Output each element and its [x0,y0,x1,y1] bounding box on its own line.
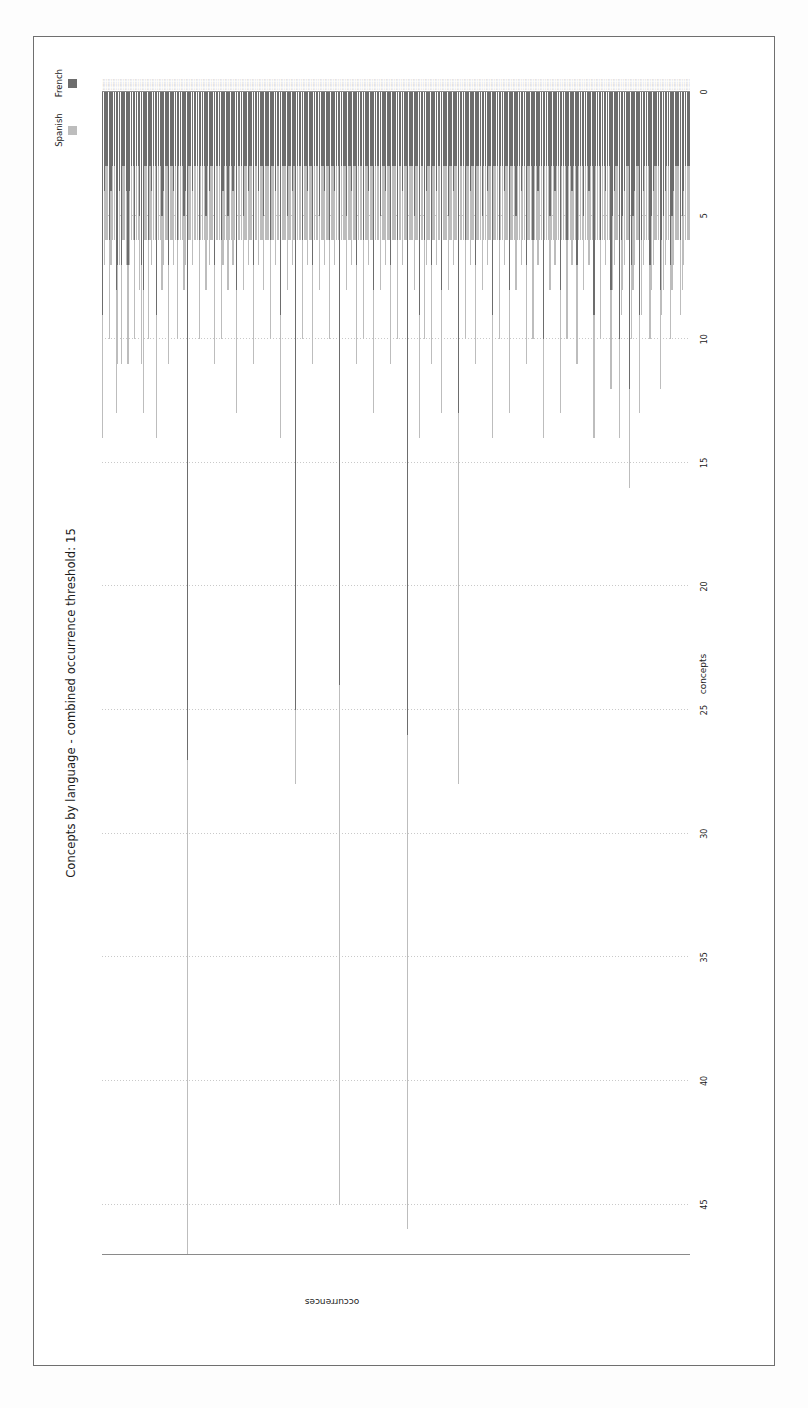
rotated-chart-canvas: Concepts by language - combined occurren… [38,43,773,1363]
legend-swatch-spanish [68,126,77,135]
plot-area: 051015202530354045••••••••••••••••••••••… [102,93,690,1255]
legend-swatch-french [68,79,77,88]
legend-label-french: French [54,69,64,97]
category-tick-label: ••••••••• [688,28,690,90]
value-axis-title-text: occurrences [305,1297,360,1307]
bar-segment-french [688,92,689,166]
plot-inner: 051015202530354045••••••••••••••••••••••… [102,93,690,1254]
chart-title: Concepts by language - combined occurren… [64,43,78,1363]
value-axis-title: occurrences [38,1274,626,1329]
legend: Spanish French [54,69,77,147]
legend-item-spanish[interactable]: Spanish [54,113,77,147]
bar-row[interactable] [688,92,689,1254]
legend-item-french[interactable]: French [54,69,77,97]
category-axis-title: concepts [698,93,708,1255]
bar-segment-spanish [688,166,689,240]
page-canvas: Concepts by language - combined occurren… [0,0,808,1408]
legend-label-spanish: Spanish [54,113,64,147]
figure-frame: Concepts by language - combined occurren… [33,36,775,1366]
